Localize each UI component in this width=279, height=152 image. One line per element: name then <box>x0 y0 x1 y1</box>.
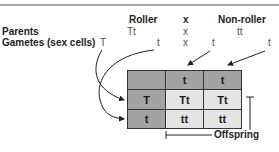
corner-cell <box>128 71 166 90</box>
row-header-2: t <box>128 110 166 128</box>
col-header-2: t <box>204 71 241 90</box>
col-header-1: t <box>166 71 204 90</box>
offspring-cell: Tt <box>166 90 204 110</box>
punnett-square: t t T Tt Tt t tt tt <box>127 70 242 129</box>
offspring-cell: tt <box>166 110 204 128</box>
offspring-cell: Tt <box>204 90 241 110</box>
row-header-1: T <box>128 90 166 110</box>
offspring-label: Offspring <box>214 129 259 141</box>
offspring-cell: tt <box>204 110 241 128</box>
